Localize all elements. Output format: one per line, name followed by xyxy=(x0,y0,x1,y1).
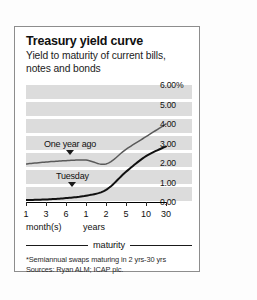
y-axis-labels: 0.001.002.003.004.005.006.00% xyxy=(157,85,197,203)
x-axis-tick xyxy=(86,202,87,206)
x-axis-tick xyxy=(166,202,167,206)
x-axis-tick xyxy=(146,202,147,206)
y-axis-tick-label: 3.00 xyxy=(160,139,176,149)
screenshot-root: Treasury yield curve Yield to maturity o… xyxy=(0,0,257,300)
page-title: Treasury yield curve xyxy=(26,34,143,48)
y-axis-tick-label: 6.00% xyxy=(160,80,183,90)
annotation-tuesday: Tuesday xyxy=(56,171,89,187)
x-axis-line xyxy=(26,202,166,203)
x-axis-group-months: month(s) xyxy=(26,222,62,232)
x-axis-tick-label: 5 xyxy=(123,209,128,219)
maturity-axis-label: maturity xyxy=(26,239,192,251)
triangle-down-icon xyxy=(68,182,76,187)
footnote-block: *Semiannual swaps maturing in 2 yrs-30 y… xyxy=(26,255,196,274)
y-axis-tick-label: 4.00 xyxy=(160,119,176,129)
x-axis-tick-label: 2 xyxy=(103,209,108,219)
chart-subtitle: Yield to maturity of current bills, note… xyxy=(26,50,186,75)
annotation-tuesday-label: Tuesday xyxy=(56,171,89,181)
y-axis-tick-label: 2.00 xyxy=(160,158,176,168)
x-axis-tick-label: 1 xyxy=(83,209,88,219)
x-axis-tick xyxy=(106,202,107,206)
x-axis-tick xyxy=(26,202,27,206)
footnote-sources: Sources: Ryan ALM; ICAP plc. xyxy=(26,265,196,275)
x-axis-tick-label: 3 xyxy=(43,209,48,219)
y-axis-tick-label: 5.00 xyxy=(160,100,176,110)
x-axis-tick xyxy=(126,202,127,206)
x-axis-tick-label: 1 xyxy=(23,209,28,219)
annotation-one-year-ago: One year ago xyxy=(44,139,96,155)
maturity-rule-right xyxy=(130,245,192,246)
x-axis-tick-label: 30 xyxy=(161,209,171,219)
x-axis-tick-label: 6 xyxy=(63,209,68,219)
plot-area: 0.001.002.003.004.005.006.00% One year a… xyxy=(26,85,192,226)
triangle-down-icon xyxy=(66,150,74,155)
x-axis-tick-label: 10 xyxy=(141,209,151,219)
y-axis-tick-label: 1.00 xyxy=(160,178,176,188)
x-axis-tick xyxy=(66,202,67,206)
x-axis-group-years: years xyxy=(83,222,105,232)
chart-card: Treasury yield curve Yield to maturity o… xyxy=(14,26,200,272)
x-axis-tick xyxy=(46,202,47,206)
maturity-text: maturity xyxy=(93,240,125,250)
annotation-one-year-ago-label: One year ago xyxy=(44,139,96,149)
footnote-semiannual: *Semiannual swaps maturing in 2 yrs-30 y… xyxy=(26,255,196,265)
maturity-rule-left xyxy=(26,245,88,246)
